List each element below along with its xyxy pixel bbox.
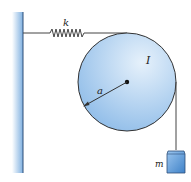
label-k: k [63,17,69,28]
mass-block [167,151,185,173]
spring-pulley-diagram: k I a m [0,0,191,182]
wall [12,12,23,173]
label-a: a [97,85,103,96]
label-I: I [145,54,151,67]
spring [50,29,84,37]
label-m: m [155,159,164,169]
